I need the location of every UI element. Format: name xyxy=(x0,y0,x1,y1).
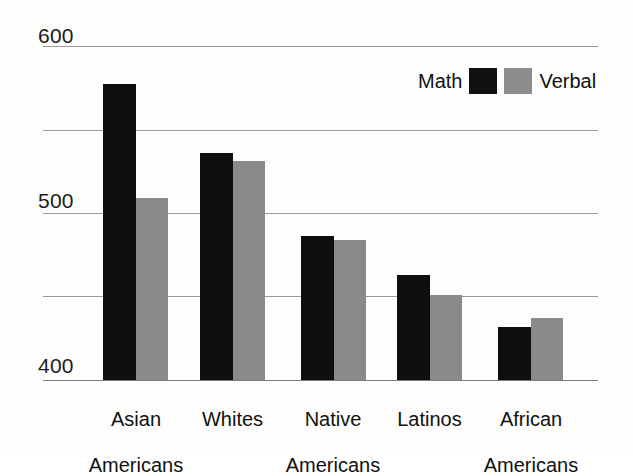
bar-verbal-native-americans xyxy=(334,240,366,380)
category-label-line1: African xyxy=(470,408,592,431)
legend-swatch-verbal-icon xyxy=(504,68,532,94)
bar-math-asian-americans xyxy=(103,84,136,380)
category-label-african-americans: African Americans xyxy=(470,385,592,476)
category-label-line2: Americans xyxy=(76,454,196,476)
category-label-line2: Americans xyxy=(470,454,592,476)
bar-math-latinos xyxy=(397,275,430,380)
chart-legend: Math Verbal xyxy=(418,68,596,94)
legend-label-verbal: Verbal xyxy=(539,70,596,92)
bar-math-whites xyxy=(200,153,233,380)
category-label-line2: Americans xyxy=(273,454,393,476)
bar-verbal-african-americans xyxy=(531,318,563,380)
legend-swatch-math-icon xyxy=(469,68,497,94)
bar-verbal-latinos xyxy=(430,295,462,380)
bar-verbal-asian-americans xyxy=(136,198,168,380)
legend-label-math: Math xyxy=(418,70,462,92)
bar-verbal-whites xyxy=(233,161,265,380)
bar-math-african-americans xyxy=(498,327,531,380)
bar-math-native-americans xyxy=(301,236,334,380)
